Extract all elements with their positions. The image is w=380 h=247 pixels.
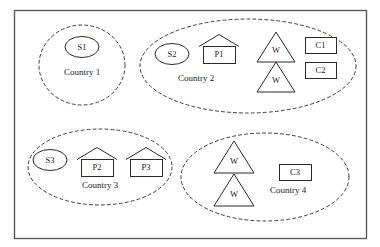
node-C1[interactable] [306,38,337,54]
node-C2[interactable] [306,63,337,79]
node-C3[interactable] [280,165,312,181]
node-S2[interactable] [155,44,189,65]
diagram-canvas: Country 1S1Country 2S2P1WWC1C2Country 3S… [0,0,380,247]
node-S1[interactable] [65,37,99,58]
diagram-svg [0,0,380,247]
node-P3-body[interactable] [131,160,163,177]
node-S3[interactable] [33,150,67,171]
group-label-country-1: Country 1 [64,68,100,77]
node-P1-body[interactable] [204,47,236,64]
group-label-country-2: Country 2 [178,74,214,83]
group-label-country-4: Country 4 [270,186,306,195]
node-P2-body[interactable] [82,160,114,177]
group-label-country-3: Country 3 [82,181,118,190]
